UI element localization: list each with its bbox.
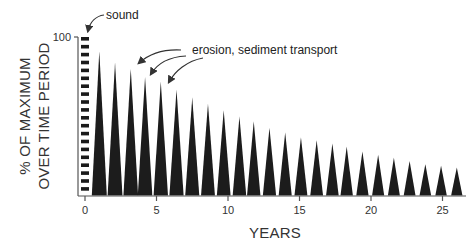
erosion-spike	[263, 128, 276, 196]
x-tick-label: 0	[82, 204, 88, 216]
erosion-spike	[388, 158, 400, 196]
erosion-spike	[404, 161, 416, 195]
erosion-spike	[294, 137, 307, 195]
x-tick-label: 5	[153, 204, 159, 216]
erosion-spike	[326, 144, 339, 196]
sound-dash	[81, 156, 89, 160]
erosion-spike	[123, 69, 138, 196]
sound-dash	[81, 163, 89, 167]
erosion-spike	[451, 167, 462, 195]
erosion-spike	[420, 164, 432, 195]
plot-area	[81, 37, 462, 196]
erosion-spike	[435, 166, 446, 196]
erosion-spike	[340, 147, 352, 196]
sound-dash	[81, 124, 89, 128]
x-tick-label: 10	[222, 204, 234, 216]
y-axis-title-line2: OVER TIME PERIOD	[35, 42, 52, 189]
sound-dash	[81, 100, 89, 104]
sound-dash	[81, 140, 89, 144]
erosion-spike	[201, 104, 215, 196]
x-tick-label: 25	[436, 204, 448, 216]
decay-chart: 0510152025 100 YEARS % OF MAXIMUM OVER T…	[0, 0, 473, 249]
sound-dash	[81, 187, 89, 191]
erosion-spike	[279, 132, 292, 195]
erosion-spike	[217, 110, 231, 195]
sound-dash	[81, 132, 89, 136]
sound-dash	[81, 45, 89, 49]
sound-dash	[81, 53, 89, 57]
arrow-erosion-3-icon	[169, 58, 203, 82]
sound-dash	[81, 116, 89, 120]
x-axis-title: YEARS	[249, 224, 301, 241]
arrow-erosion-1-icon	[139, 50, 181, 63]
arrow-sound-icon	[88, 15, 104, 31]
erosion-spike	[185, 97, 199, 195]
sound-dash	[81, 84, 89, 88]
annotation-sound: sound	[106, 8, 139, 22]
erosion-spike	[233, 117, 247, 196]
x-tick-label: 20	[365, 204, 377, 216]
annotations: sound erosion, sediment transport	[88, 8, 338, 82]
erosion-spike	[108, 62, 123, 195]
sound-dash	[81, 108, 89, 112]
sound-dash	[81, 69, 89, 73]
y-tick-label: 100	[53, 31, 71, 43]
y-axis-title-line1: % OF MAXIMUM	[16, 57, 33, 174]
sound-dash	[81, 179, 89, 183]
erosion-spike	[138, 77, 153, 196]
erosion-spike	[310, 140, 323, 195]
erosion-spike	[169, 89, 183, 195]
sound-dash	[81, 61, 89, 65]
x-ticks: 0510152025	[82, 196, 449, 216]
erosion-spike	[372, 155, 384, 196]
x-tick-label: 15	[293, 204, 305, 216]
erosion-spike	[356, 151, 368, 195]
sound-dash	[81, 77, 89, 81]
sound-dash	[81, 148, 89, 152]
sound-dash	[81, 37, 89, 41]
annotation-erosion: erosion, sediment transport	[192, 43, 338, 57]
sound-dash	[81, 171, 89, 175]
erosion-spike	[247, 121, 260, 195]
arrow-erosion-2-icon	[151, 56, 186, 74]
sound-dash	[81, 92, 89, 96]
erosion-spike	[154, 82, 168, 196]
erosion-spike	[92, 51, 107, 195]
